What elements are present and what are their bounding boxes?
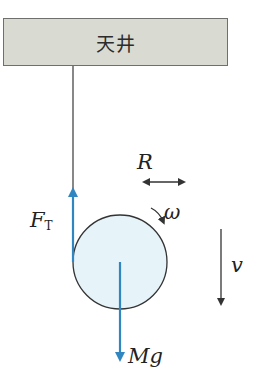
tension-label: FT (30, 210, 53, 232)
velocity-symbol: v (231, 253, 243, 277)
weight-label: Mg (128, 346, 163, 367)
radius-symbol: R (137, 150, 153, 174)
radius-label: R (137, 152, 153, 173)
physics-diagram (0, 0, 260, 391)
tension-subscript: T (45, 219, 53, 233)
tension-symbol: F (30, 208, 45, 232)
omega-label: ω (164, 202, 180, 222)
omega-symbol: ω (164, 200, 180, 224)
weight-symbol: Mg (128, 344, 163, 368)
velocity-label: v (231, 255, 243, 276)
rotation-arrow (151, 208, 163, 221)
